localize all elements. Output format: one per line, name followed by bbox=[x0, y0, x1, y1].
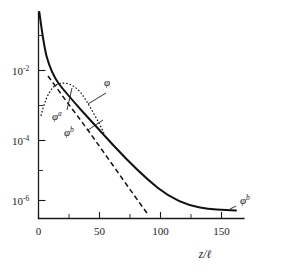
x-tick-labels: 0 50 100 150 bbox=[36, 225, 231, 237]
x-axis-title: z/ℓ bbox=[198, 248, 212, 260]
y-tick-labels: 10-2 10-4 10-6 bbox=[12, 64, 29, 208]
label-phi-b-right: φb bbox=[240, 193, 250, 207]
y-tick-label-1e-2: 10-2 bbox=[12, 64, 29, 78]
curve-labels: φ φa φb φb bbox=[52, 76, 250, 206]
x-tick-label-50: 50 bbox=[94, 225, 106, 237]
phi-b-right-leader-line bbox=[230, 206, 236, 209]
y-tick-marks bbox=[39, 36, 46, 201]
phi-leader-line bbox=[88, 93, 106, 104]
y-tick-label-1e-6: 10-6 bbox=[12, 194, 29, 208]
x-tick-label-100: 100 bbox=[152, 225, 169, 237]
x-tick-label-150: 150 bbox=[213, 225, 230, 237]
y-tick-label-1e-4: 10-4 bbox=[12, 134, 29, 148]
axis-group bbox=[39, 12, 245, 219]
annotation-leaders bbox=[67, 88, 236, 209]
x-tick-marks bbox=[39, 212, 222, 219]
label-phi-total: φ bbox=[104, 76, 110, 88]
x-tick-label-0: 0 bbox=[36, 225, 42, 237]
label-phi-a: φa bbox=[52, 109, 62, 123]
figure-container: 10-2 10-4 10-6 0 50 100 150 z/ℓ bbox=[0, 0, 282, 275]
label-phi-b: φb bbox=[64, 125, 74, 139]
curve-phi-b bbox=[48, 76, 148, 215]
log-linear-plot: 10-2 10-4 10-6 0 50 100 150 z/ℓ bbox=[0, 0, 282, 275]
curve-phi-total bbox=[39, 12, 236, 210]
